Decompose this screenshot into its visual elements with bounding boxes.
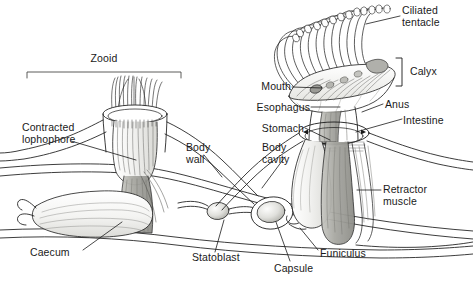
zooid-bracket xyxy=(27,72,181,78)
label-funiculus: Funiculus xyxy=(320,248,366,260)
label-retractor-muscle: Retractor muscle xyxy=(383,184,427,207)
label-statoblast: Statoblast xyxy=(192,252,240,264)
caecum-structure xyxy=(17,191,152,237)
label-body-cavity: Body cavity xyxy=(262,142,289,165)
label-calyx: Calyx xyxy=(410,66,437,78)
label-mouth: Mouth xyxy=(241,81,291,93)
label-capsule: Capsule xyxy=(274,263,313,275)
bryozoan-anatomy-figure: Ciliated tentacle Calyx Mouth Anus Esoph… xyxy=(0,0,473,282)
calyx-bracket xyxy=(396,58,402,86)
label-zooid: Zooid xyxy=(74,53,134,65)
label-caecum: Caecum xyxy=(30,247,70,259)
retractor-muscle-bundle xyxy=(352,143,375,243)
label-body-wall: Body wall xyxy=(186,142,210,165)
label-stomach: Stomach xyxy=(244,123,304,135)
label-esophagus: Esophagus xyxy=(240,102,310,114)
label-ciliated-tentacle: Ciliated tentacle xyxy=(402,5,440,28)
label-intestine: Intestine xyxy=(403,115,444,127)
label-contracted-lophophore: Contracted lophophore xyxy=(22,122,76,145)
label-anus: Anus xyxy=(385,99,409,111)
funiculus-and-statoblasts xyxy=(178,194,306,232)
